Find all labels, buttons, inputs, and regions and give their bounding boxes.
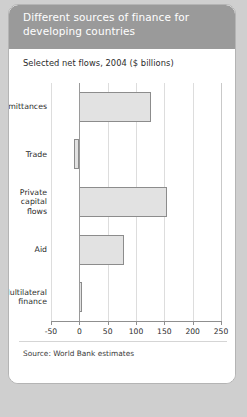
- bar: [79, 92, 150, 122]
- source-note: Source: World Bank estimates: [23, 349, 134, 358]
- zero-axis-line: [79, 83, 80, 321]
- plot-area: [51, 83, 221, 321]
- category-label: Trade: [8, 150, 47, 159]
- x-tick-label: 150: [157, 327, 172, 336]
- x-tick: [79, 321, 80, 325]
- card-header: Different sources of finance for develop…: [9, 5, 235, 49]
- x-tick: [193, 321, 194, 325]
- x-tick-label: 250: [214, 327, 229, 336]
- x-tick-label: 0: [77, 327, 82, 336]
- bar-chart: -50050100150200250 RemittancesTradePriva…: [9, 79, 236, 334]
- x-tick: [108, 321, 109, 325]
- x-tick: [51, 321, 52, 325]
- source-divider: [19, 341, 227, 342]
- gridline: [51, 83, 52, 321]
- x-tick-label: 50: [103, 327, 113, 336]
- bar: [79, 235, 124, 265]
- page-background: Different sources of finance for develop…: [0, 0, 247, 417]
- x-tick-label: 100: [129, 327, 144, 336]
- card-body: Selected net flows, 2004 ($ billions) -5…: [9, 49, 235, 384]
- bar: [79, 187, 167, 217]
- x-tick-label: -50: [45, 327, 57, 336]
- gridline: [193, 83, 194, 321]
- category-label: Private capital flows: [8, 188, 47, 216]
- x-tick-label: 200: [185, 327, 200, 336]
- x-tick: [221, 321, 222, 325]
- category-label: Remittances: [8, 102, 47, 111]
- x-tick: [136, 321, 137, 325]
- chart-subtitle: Selected net flows, 2004 ($ billions): [23, 58, 174, 68]
- chart-card: Different sources of finance for develop…: [8, 4, 236, 384]
- page-title: Different sources of finance for develop…: [23, 11, 221, 38]
- category-label: Multilateral finance: [8, 288, 47, 307]
- category-label: Aid: [8, 245, 47, 254]
- x-tick: [164, 321, 165, 325]
- gridline: [221, 83, 222, 321]
